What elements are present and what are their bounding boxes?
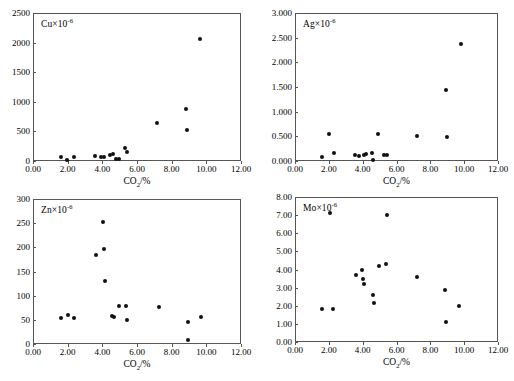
data-point xyxy=(354,273,358,277)
x-axis-tick-label: 10.00 xyxy=(196,164,216,174)
data-point xyxy=(415,275,419,279)
data-point xyxy=(371,158,375,162)
panel-label-cu: Cu×10-6 xyxy=(41,17,73,29)
y-axis-tick-label: 5.00 xyxy=(276,246,292,256)
y-axis-tick-mark xyxy=(33,247,36,248)
y-axis-tick-label: 1.00 xyxy=(276,319,292,329)
x-axis-tick-label: 0.00 xyxy=(287,345,303,355)
y-axis-tick-mark xyxy=(33,272,36,273)
y-axis-tick-label: 2000 xyxy=(12,38,30,48)
x-axis-tick-label: 0.00 xyxy=(25,347,41,357)
x-axis-tick-label: 8.00 xyxy=(164,347,180,357)
panel-label-ag: Ag×10-6 xyxy=(303,17,336,29)
plot-frame-zn xyxy=(33,199,241,344)
x-axis-tick-mark xyxy=(295,161,296,164)
data-point xyxy=(370,151,374,155)
data-point xyxy=(102,247,106,251)
x-axis-tick-mark xyxy=(363,342,364,345)
x-axis-tick-mark xyxy=(363,161,364,164)
x-axis-tick-mark xyxy=(498,342,499,345)
y-axis-tick-label: 300 xyxy=(17,194,31,204)
data-point xyxy=(157,305,161,309)
y-axis-tick-mark xyxy=(295,112,298,113)
x-axis-tick-label: 0.00 xyxy=(287,164,303,174)
x-axis-tick-mark xyxy=(397,161,398,164)
y-axis-tick-label: 7.00 xyxy=(276,210,292,220)
x-axis-tick-mark xyxy=(329,161,330,164)
y-axis-tick-mark xyxy=(295,215,298,216)
y-axis-tick-mark xyxy=(33,199,36,200)
y-axis-tick-mark xyxy=(295,270,298,271)
x-axis-tick-mark xyxy=(137,344,138,347)
x-axis-tick-label: 0.00 xyxy=(25,164,41,174)
y-axis-tick-mark xyxy=(295,306,298,307)
x-axis-tick-mark xyxy=(430,342,431,345)
x-axis-tick-label: 2.00 xyxy=(60,347,76,357)
data-point xyxy=(94,253,98,257)
panel-label-mo: Mo×10-6 xyxy=(303,201,337,213)
panel-label-zn: Zn×10-6 xyxy=(41,203,73,215)
data-point xyxy=(457,304,461,308)
x-axis-tick-label: 8.00 xyxy=(422,345,438,355)
y-axis-tick-mark xyxy=(295,87,298,88)
figure-panel-grid: Cu×10-6 050010001500200025000.002.004.00… xyxy=(0,0,514,381)
y-axis-tick-mark xyxy=(295,136,298,137)
y-axis-tick-mark xyxy=(33,131,36,132)
y-axis-tick-mark xyxy=(33,296,36,297)
data-point xyxy=(445,135,449,139)
x-axis-tick-label: 12.00 xyxy=(231,347,251,357)
data-point xyxy=(117,157,121,161)
data-point xyxy=(66,313,70,317)
data-point xyxy=(117,304,121,308)
data-point xyxy=(385,213,389,217)
data-point xyxy=(377,264,381,268)
x-axis-tick-label: 4.00 xyxy=(355,164,371,174)
y-axis-tick-label: 200 xyxy=(17,242,31,252)
data-point xyxy=(186,320,190,324)
data-point xyxy=(444,320,448,324)
x-axis-tick-label: 12.00 xyxy=(231,164,251,174)
data-point xyxy=(72,316,76,320)
x-axis-tick-label: 10.00 xyxy=(196,347,216,357)
y-axis-tick-mark xyxy=(33,223,36,224)
y-axis-tick-mark xyxy=(295,233,298,234)
y-axis-tick-mark xyxy=(33,13,36,14)
x-axis-tick-label: 10.00 xyxy=(454,164,474,174)
data-point xyxy=(72,155,76,159)
x-axis-tick-label: 2.00 xyxy=(321,345,337,355)
panel-mo: Mo×10-6 0.001.002.003.004.005.006.007.00… xyxy=(257,190,514,381)
x-axis-tick-mark xyxy=(33,344,34,347)
y-axis-tick-label: 2.00 xyxy=(276,301,292,311)
x-axis-tick-label: 6.00 xyxy=(389,345,405,355)
data-point xyxy=(112,315,116,319)
x-axis-tick-mark xyxy=(464,342,465,345)
x-axis-title: CO2/% xyxy=(383,357,410,369)
y-axis-tick-mark xyxy=(295,38,298,39)
y-axis-tick-label: 1.000 xyxy=(272,107,292,117)
x-axis-tick-mark xyxy=(498,161,499,164)
data-point xyxy=(59,316,63,320)
data-point xyxy=(331,307,335,311)
data-point xyxy=(459,42,463,46)
y-axis-tick-label: 3.000 xyxy=(272,8,292,18)
y-axis-tick-label: 500 xyxy=(17,126,31,136)
x-axis-tick-label: 4.00 xyxy=(94,164,110,174)
data-point xyxy=(415,134,419,138)
y-axis-tick-label: 0.500 xyxy=(272,131,292,141)
y-axis-tick-mark xyxy=(295,62,298,63)
x-axis-tick-mark xyxy=(172,344,173,347)
data-point xyxy=(320,155,324,159)
y-axis-tick-label: 2500 xyxy=(12,8,30,18)
data-point xyxy=(320,307,324,311)
x-axis-tick-mark xyxy=(241,161,242,164)
y-axis-tick-label: 2.000 xyxy=(272,57,292,67)
y-axis-tick-label: 1000 xyxy=(12,97,30,107)
data-point xyxy=(328,211,332,215)
x-axis-tick-mark xyxy=(137,161,138,164)
y-axis-tick-mark xyxy=(33,320,36,321)
y-axis-tick-mark xyxy=(295,13,298,14)
y-axis-tick-mark xyxy=(33,43,36,44)
data-point xyxy=(384,262,388,266)
x-axis-tick-mark xyxy=(397,342,398,345)
x-axis-tick-label: 4.00 xyxy=(94,347,110,357)
